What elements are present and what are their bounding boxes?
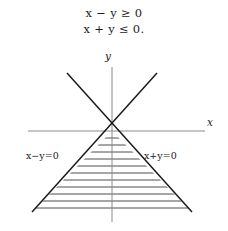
line-x-plus-y-equals-zero xyxy=(32,73,157,212)
y-axis-label: y xyxy=(105,50,111,62)
x-axis-label: x xyxy=(207,116,213,128)
line-label-x-minus-y: x−y=0 xyxy=(26,150,59,161)
line-x-minus-y-equals-zero xyxy=(67,73,192,212)
coordinate-plot xyxy=(0,0,228,231)
line-label-x-plus-y: x+y=0 xyxy=(144,150,177,161)
math-figure: x − y ≥ 0 x + y ≤ 0. xyxy=(0,0,228,231)
